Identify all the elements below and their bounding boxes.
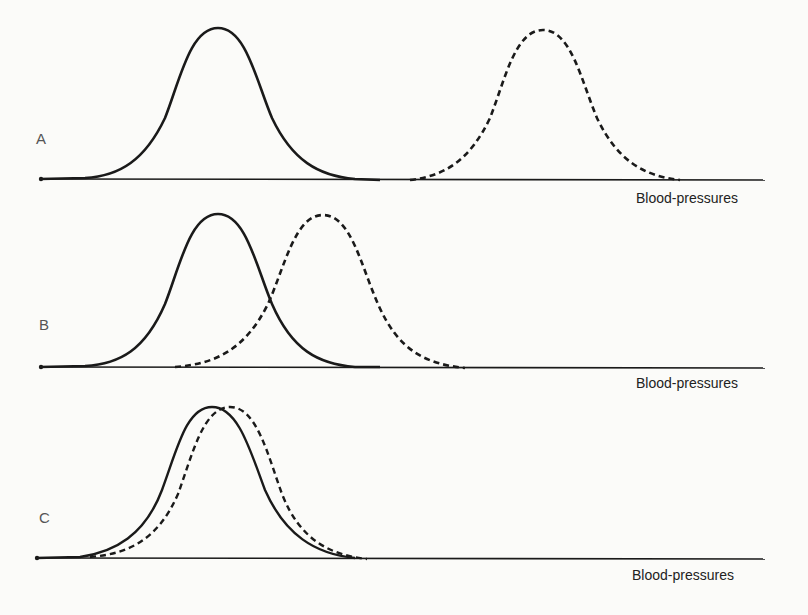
panel-a-solid-curve: [40, 28, 380, 180]
panel-c-axis: [36, 558, 765, 559]
panel-c-label: C: [39, 509, 50, 526]
distribution-diagram: [0, 0, 808, 615]
panel-b-label: B: [39, 316, 49, 333]
panel-c: [35, 407, 765, 560]
panel-b-axis: [40, 367, 765, 368]
panel-a: [39, 28, 765, 181]
panel-b-solid-curve: [40, 214, 380, 367]
panel-b-dashed-curve: [175, 215, 465, 368]
panel-c-solid-curve: [36, 407, 355, 558]
panel-c-axis-label: Blood-pressures: [632, 567, 734, 583]
panel-a-label: A: [36, 130, 46, 147]
panel-b: [39, 214, 765, 369]
panel-a-axis: [40, 179, 765, 180]
panel-a-dashed-curve: [410, 30, 680, 180]
panel-b-axis-label: Blood-pressures: [636, 375, 738, 391]
panel-a-axis-label: Blood-pressures: [636, 190, 738, 206]
